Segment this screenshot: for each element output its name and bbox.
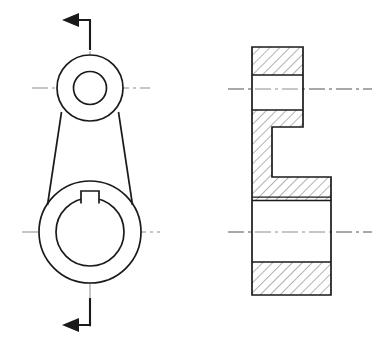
lower-bore-void: [252, 200, 331, 262]
section-view: [228, 45, 372, 297]
engineering-drawing-sheet: [0, 0, 376, 349]
cutting-plane-arrow-top-head: [62, 13, 79, 27]
cutting-plane-arrow-bottom-head: [62, 318, 79, 332]
front-elevation-view: [39, 55, 141, 283]
drawing-canvas: [0, 0, 376, 349]
keyway-fill: [81, 191, 99, 206]
upper-bore-void: [252, 75, 303, 110]
